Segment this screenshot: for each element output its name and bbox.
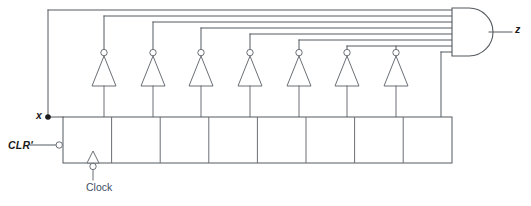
- circuit-schematic-svg: [0, 0, 531, 206]
- inverter-4-triangle: [238, 56, 262, 86]
- inverter-1: [92, 49, 116, 117]
- inverter-6-bubble: [344, 49, 350, 55]
- inverter-3-triangle: [189, 56, 213, 86]
- label-clock: Clock: [86, 182, 112, 193]
- inverter-5-triangle: [287, 56, 311, 86]
- clock-bubble: [90, 163, 96, 169]
- inverter-5: [287, 49, 311, 117]
- label-output-z: z: [515, 24, 520, 35]
- inverter-2-triangle: [141, 56, 165, 86]
- inverter-1-bubble: [101, 49, 107, 55]
- shift-register: [63, 117, 452, 163]
- inverter-3-bubble: [198, 49, 204, 55]
- inverter-3: [189, 49, 213, 117]
- circuit-diagram: x CLR' z Clock: [0, 0, 531, 206]
- label-input-clr: CLR': [8, 140, 33, 151]
- inverter-7-triangle: [384, 56, 408, 86]
- x-junction-dot: [45, 114, 51, 120]
- inverter-4: [238, 49, 262, 117]
- inverter-2: [141, 49, 165, 117]
- x-input: [45, 114, 63, 120]
- inverter-bank: [92, 49, 408, 117]
- inverter-4-bubble: [247, 49, 253, 55]
- label-input-x: x: [36, 110, 42, 121]
- and-gate: [452, 8, 493, 56]
- inverter-6-triangle: [335, 56, 359, 86]
- inverter-7-bubble: [393, 49, 399, 55]
- inverter-1-triangle: [92, 56, 116, 86]
- inverter-7: [384, 49, 408, 117]
- inverter-2-bubble: [150, 49, 156, 55]
- clr-input: [30, 142, 62, 148]
- inverter-6: [335, 49, 359, 117]
- inverter-5-bubble: [296, 49, 302, 55]
- and-gate-body: [452, 8, 493, 56]
- clr-inversion-bubble: [56, 142, 62, 148]
